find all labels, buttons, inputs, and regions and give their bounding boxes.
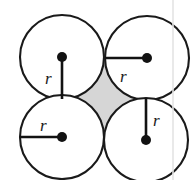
center-dot-top-left <box>57 52 67 62</box>
circle-packing-diagram: r r r r <box>0 0 192 180</box>
radius-label-bottom-right: r <box>153 111 160 130</box>
center-dot-bottom-right <box>141 135 151 145</box>
radius-label-top-left: r <box>45 69 52 88</box>
figure-container: r r r r <box>0 0 192 180</box>
center-dot-bottom-left <box>57 132 67 142</box>
radius-label-bottom-left: r <box>40 116 47 135</box>
center-dot-top-right <box>142 53 152 63</box>
radius-label-top-right: r <box>120 67 127 86</box>
